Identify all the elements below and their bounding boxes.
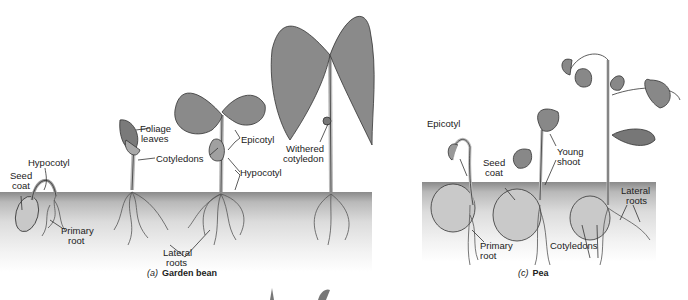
leader-cotyledons-1 xyxy=(138,158,155,160)
label-lateral-roots-line2: roots xyxy=(166,258,187,268)
label-pea-primary-root-line2: root xyxy=(480,251,496,261)
label-pea-lateral-roots-line2: roots xyxy=(626,196,647,206)
partial-leaf-right-icon xyxy=(318,289,330,300)
label-pea-epicotyl: Epicotyl xyxy=(427,119,460,129)
leader-young-shoot xyxy=(545,134,556,185)
label-young-shoot-line2: shoot xyxy=(557,157,580,167)
pea-stage-1-plant-icon xyxy=(431,139,478,265)
leader-epicotyl-pea xyxy=(460,159,467,176)
label-epicotyl: Epicotyl xyxy=(241,135,274,145)
caption-garden-bean: (a)Garden bean xyxy=(147,268,217,278)
leader-lateral-roots-pea xyxy=(620,205,640,222)
label-cotyledons: Cotyledons xyxy=(156,154,204,164)
caption-letter-c: (c) xyxy=(518,268,529,278)
leader-withered xyxy=(320,124,328,142)
label-foliage-leaves-line2: leaves xyxy=(141,134,168,144)
caption-pea: (c)Pea xyxy=(518,268,549,278)
label-seed-coat-line2: coat xyxy=(12,181,30,191)
caption-title-c: Pea xyxy=(533,268,549,278)
label-hypocotyl: Hypocotyl xyxy=(28,158,70,168)
caption-title-a: Garden bean xyxy=(162,268,217,278)
caption-letter-a: (a) xyxy=(147,268,158,278)
bean-stage-4-plant-icon xyxy=(271,16,374,245)
label-primary-root-line2: root xyxy=(68,236,84,246)
label-pea-cotyledons: Cotyledons xyxy=(550,241,598,251)
germination-illustration xyxy=(0,0,688,300)
leader-epicotyl xyxy=(228,130,240,150)
partial-leaf-left-icon xyxy=(270,288,274,300)
label-pea-seed-coat-line2: coat xyxy=(485,168,503,178)
label-hypocotyl-2: Hypocotyl xyxy=(240,168,282,178)
leader-hypocotyl-2 xyxy=(228,158,240,190)
label-withered-cotyledon-line2: cotyledon xyxy=(283,154,324,164)
